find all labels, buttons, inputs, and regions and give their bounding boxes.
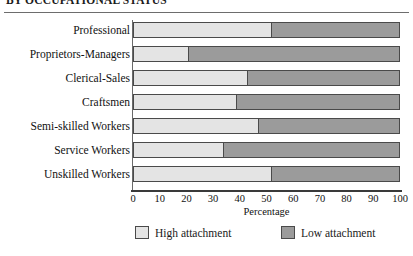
x-tick-label: 10	[154, 193, 165, 205]
bar-segment-low-attachment	[236, 95, 399, 109]
x-tick-label: 70	[315, 193, 326, 205]
x-tick-label: 30	[208, 193, 219, 205]
bar-segment-low-attachment	[258, 119, 400, 133]
category-label: Semi-skilled Workers	[2, 120, 130, 132]
bar-segment-low-attachment	[247, 71, 399, 85]
bar-row	[133, 46, 400, 62]
bar-segment-low-attachment	[271, 23, 399, 37]
legend-swatch-high-icon	[135, 226, 149, 239]
bar-row	[133, 70, 400, 86]
x-tick-label: 20	[181, 193, 192, 205]
bar-rows	[133, 20, 400, 190]
bar-segment-low-attachment	[188, 47, 399, 61]
chart-legend: High attachment Low attachment	[133, 226, 405, 246]
bar-segment-low-attachment	[223, 143, 399, 157]
bar-row	[133, 118, 400, 134]
x-tick-label: 90	[368, 193, 379, 205]
category-label: Service Workers	[2, 144, 130, 156]
x-axis-label: Percentage	[133, 206, 400, 217]
legend-label-low: Low attachment	[301, 227, 375, 239]
bar-row	[133, 166, 400, 182]
legend-item-high-attachment: High attachment	[135, 226, 231, 239]
category-label-list: ProfessionalProprietors-ManagersClerical…	[0, 0, 130, 200]
plot-area	[133, 20, 400, 190]
x-tick-label: 50	[261, 193, 272, 205]
x-tick-label: 60	[288, 193, 299, 205]
bar-row	[133, 22, 400, 38]
x-tick-label: 100	[392, 193, 408, 205]
category-label: Craftsmen	[2, 96, 130, 108]
x-tick-label: 0	[130, 193, 135, 205]
category-label: Professional	[2, 24, 130, 36]
x-axis-line	[131, 190, 402, 192]
category-label: Clerical-Sales	[2, 72, 130, 84]
x-tick-label: 80	[341, 193, 352, 205]
legend-label-high: High attachment	[155, 227, 231, 239]
bar-row	[133, 94, 400, 110]
legend-swatch-low-icon	[281, 226, 295, 239]
legend-item-low-attachment: Low attachment	[281, 226, 375, 239]
x-tick-label: 40	[235, 193, 246, 205]
bar-segment-low-attachment	[271, 167, 399, 181]
category-label: Proprietors-Managers	[2, 48, 130, 60]
stacked-bar-chart: ProfessionalProprietors-ManagersClerical…	[0, 0, 413, 256]
category-label: Unskilled Workers	[2, 168, 130, 180]
bar-row	[133, 142, 400, 158]
